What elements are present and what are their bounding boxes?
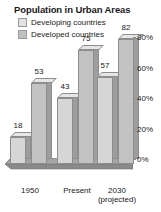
bar-front-face — [31, 83, 47, 164]
y-axis: 0%20%40%60%80% — [133, 32, 161, 180]
bar-developed-0 — [31, 83, 47, 164]
bar-front-face — [10, 137, 26, 164]
y-tick-60: 60% — [133, 64, 153, 73]
y-tick-mark — [133, 159, 136, 160]
x-axis-label-line: (projected) — [87, 195, 147, 204]
bar-front-face — [57, 98, 73, 164]
y-tick-mark — [133, 129, 136, 130]
y-tick-label: 40% — [137, 94, 153, 103]
bar-developed-1 — [78, 50, 94, 164]
y-tick-label: 20% — [137, 125, 153, 134]
bar-front-face — [97, 77, 113, 164]
bar-value-label: 43 — [54, 82, 76, 91]
bar-value-label: 57 — [94, 61, 116, 70]
bar-value-label: 82 — [115, 23, 137, 32]
bar-front-face — [78, 50, 94, 164]
x-axis-label-2: 2030(projected) — [87, 186, 147, 204]
y-tick-mark — [133, 68, 136, 69]
bar-developed-2 — [118, 39, 134, 164]
bar-front-face — [118, 39, 134, 164]
legend-item-developing: Developing countries — [18, 17, 106, 28]
bar-developing-2 — [97, 77, 113, 164]
y-tick-80: 80% — [133, 33, 153, 42]
bar-developing-1 — [57, 98, 73, 164]
x-axis-label-line: 2030 — [87, 186, 147, 195]
y-tick-label: 80% — [137, 33, 153, 42]
bar-value-label: 18 — [7, 121, 29, 130]
bar-side-face — [47, 78, 52, 159]
bar-top-face — [78, 45, 104, 50]
y-tick-40: 40% — [133, 94, 153, 103]
legend-label-developing: Developing countries — [31, 18, 106, 27]
y-tick-mark — [133, 37, 136, 38]
bar-value-label: 75 — [75, 34, 97, 43]
bar-value-label: 53 — [28, 67, 50, 76]
y-tick-0: 0% — [133, 155, 149, 164]
legend-swatch-developing-icon — [18, 18, 27, 27]
x-axis-labels: 1950Present2030(projected) — [0, 186, 140, 212]
y-tick-label: 60% — [137, 64, 153, 73]
y-tick-20: 20% — [133, 125, 153, 134]
y-tick-mark — [133, 98, 136, 99]
chart-container: Population in Urban Areas Developing cou… — [0, 0, 161, 212]
chart-title: Population in Urban Areas — [14, 4, 130, 15]
bar-developing-0 — [10, 137, 26, 164]
y-tick-label: 0% — [137, 155, 149, 164]
